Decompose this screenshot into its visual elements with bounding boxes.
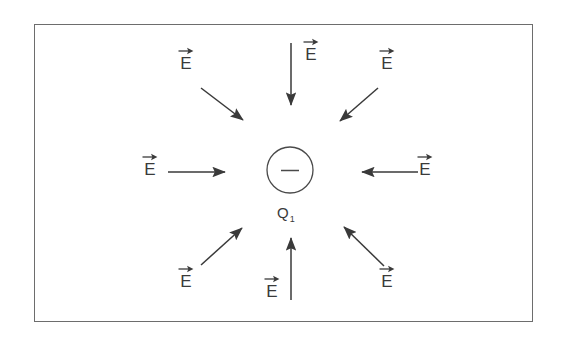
field-label-bottom-center: E [264,275,280,300]
field-label-glyph: E [381,273,392,290]
electric-field-diagram [0,0,575,342]
field-arrow-bottom-left [201,228,242,265]
field-label-glyph: E [381,55,392,72]
field-label-glyph: E [180,273,191,290]
field-label-top-right: E [379,47,395,72]
field-arrow-top-right [340,88,378,121]
field-label-glyph: E [180,55,191,72]
field-label-top-center: E [303,38,319,63]
field-label-bottom-left: E [178,265,194,290]
field-label-glyph: E [419,161,430,178]
field-arrow-bottom-right [344,227,384,266]
charge-label: Q1 [277,204,295,224]
charge-label-main: Q [277,204,289,221]
field-arrow-group [168,43,418,300]
field-label-top-left: E [178,47,194,72]
charge-label-subscript: 1 [290,214,295,224]
figure-canvas: EEEEEEEE Q1 [0,0,575,342]
field-label-glyph: E [266,283,277,300]
field-label-glyph: E [144,161,155,178]
field-label-mid-left: E [142,153,158,178]
field-label-bottom-right: E [379,265,395,290]
field-arrow-top-left [201,88,243,120]
field-label-mid-right: E [417,153,433,178]
field-label-glyph: E [305,46,316,63]
